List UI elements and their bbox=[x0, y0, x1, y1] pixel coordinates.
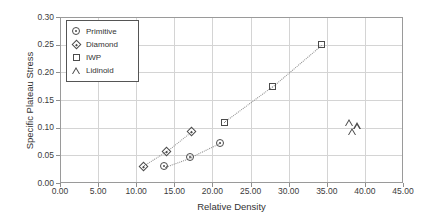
x-axis-tick-label: 0.00 bbox=[40, 187, 80, 196]
legend-item-diamond: Diamond bbox=[72, 38, 133, 51]
legend-item-label: IWP bbox=[86, 53, 101, 62]
legend-item-iwp: IWP bbox=[72, 51, 133, 64]
diamond-marker-icon bbox=[72, 40, 82, 50]
triangle-marker-icon bbox=[72, 67, 80, 74]
x-axis-title: Relative Density bbox=[60, 201, 403, 212]
circle-marker-icon bbox=[72, 27, 80, 35]
x-axis-tick-label: 15.00 bbox=[154, 187, 194, 196]
legend-item-label: Diamond bbox=[86, 40, 118, 49]
x-axis-tick-label: 25.00 bbox=[231, 187, 271, 196]
x-axis-tick-label: 20.00 bbox=[192, 187, 232, 196]
axis-layer: 0.000.050.100.150.200.250.300.005.0010.0… bbox=[0, 0, 421, 223]
chart-legend: PrimitiveDiamondIWPLidinoid bbox=[66, 20, 139, 82]
chart-figure: 0.000.050.100.150.200.250.300.005.0010.0… bbox=[0, 0, 421, 223]
y-axis-title: Specific Plateau Stress bbox=[24, 16, 35, 186]
x-axis-tick-label: 35.00 bbox=[307, 187, 347, 196]
x-axis-tick-label: 45.00 bbox=[383, 187, 421, 196]
legend-item-label: Lidinoid bbox=[86, 66, 114, 75]
x-axis-tick-label: 30.00 bbox=[269, 187, 309, 196]
x-axis-tick-label: 5.00 bbox=[78, 187, 118, 196]
x-axis-tick-label: 10.00 bbox=[116, 187, 156, 196]
legend-item-lidinoid: Lidinoid bbox=[72, 64, 133, 77]
legend-item-label: Primitive bbox=[86, 27, 117, 36]
x-axis-tick-label: 40.00 bbox=[345, 187, 385, 196]
legend-item-primitive: Primitive bbox=[72, 25, 133, 38]
y-axis-title-wrap: Specific Plateau Stress bbox=[0, 0, 60, 183]
square-marker-icon bbox=[73, 54, 80, 61]
